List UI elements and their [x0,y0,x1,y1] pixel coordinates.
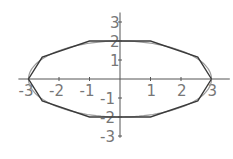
axes [18,13,229,138]
x-tick-label: 1 [147,82,157,100]
x-tick-label: -1 [80,82,95,100]
plot-area: -3-2-1123-3-2-1123 [0,0,233,159]
x-tick-label: 3 [208,82,218,100]
y-tick-label: 2 [110,33,120,51]
y-tick-label: 1 [110,52,120,70]
y-tick-label: -2 [100,109,115,127]
x-tick-label: -2 [49,82,64,100]
tick-labels: -3-2-1123-3-2-1123 [19,14,218,146]
y-tick-label: -1 [100,90,115,108]
y-tick-label: 3 [110,14,120,32]
y-tick-label: -3 [100,128,115,146]
x-tick-label: 2 [177,82,187,100]
x-tick-label: -3 [19,82,34,100]
